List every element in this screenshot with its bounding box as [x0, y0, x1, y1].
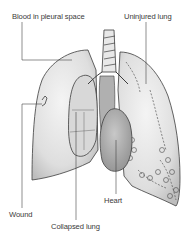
label-collapsed-lung: Collapsed lung [51, 222, 100, 231]
leader-blood [22, 22, 72, 60]
label-wound: Wound [9, 210, 32, 219]
label-heart: Heart [104, 196, 122, 205]
label-blood-in-pleural-space: Blood in pleural space [12, 12, 85, 21]
label-uninjured-lung: Uninjured lung [124, 12, 172, 21]
collapsed-lung-shape [69, 75, 98, 156]
